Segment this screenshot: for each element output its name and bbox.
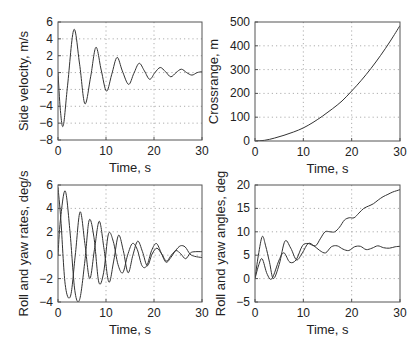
y-tick-label: 2 [46,49,53,63]
crossrange-line [255,26,400,141]
y-tick-label: 4 [46,201,53,215]
y-tick-label: 20 [237,178,251,192]
y-tick-label: 2 [46,225,53,239]
grid-lines [255,185,400,302]
y-tick-label: 0 [243,134,250,148]
yaw-rate-line [58,191,202,302]
x-axis-label: Time, s [306,322,349,337]
x-axis-label: Time, s [109,160,152,175]
x-tick-label: 30 [195,306,209,320]
y-tick-label: 0 [243,272,250,286]
y-tick-label: −4 [39,295,53,309]
y-axis-label: Side velocity, m/s [16,30,31,131]
y-tick-label: −2 [39,82,53,96]
plot-frame [255,22,400,141]
y-tick-label: 200 [230,86,250,100]
y-axis-ticks: 0100200300400500 [230,15,258,148]
y-tick-label: 400 [230,39,250,53]
roll-angle-line [255,236,400,278]
x-tick-label: 0 [55,306,62,320]
x-tick-label: 0 [55,144,62,158]
y-tick-label: −5 [236,295,250,309]
y-axis-label: Roll and yaw angles, deg [213,171,228,316]
y-tick-label: −6 [39,116,53,130]
roll-rate-line [58,187,202,298]
x-tick-label: 30 [393,306,407,320]
y-tick-label: 15 [237,201,251,215]
y-tick-label: 0 [46,248,53,262]
figure: 0102030−8−6−4−20246Time, sSide velocity,… [0,0,420,350]
plot-frame [58,22,202,140]
x-tick-label: 0 [252,306,259,320]
x-tick-label: 10 [297,306,311,320]
side-velocity-plot: 0102030−8−6−4−20246Time, sSide velocity,… [16,15,209,175]
x-tick-label: 10 [99,144,113,158]
x-tick-label: 20 [345,306,359,320]
x-axis-label: Time, s [109,322,152,337]
y-tick-label: 0 [46,66,53,80]
grid-lines [58,22,202,140]
x-axis-label: Time, s [306,161,349,176]
roll-yaw-rates-plot: 0102030−4−20246Time, sRoll and yaw rates… [16,170,209,337]
x-tick-label: 20 [147,306,161,320]
yaw-angle-line [255,190,400,280]
y-tick-label: 4 [46,32,53,46]
x-tick-label: 0 [252,145,259,159]
grid-lines [58,185,202,302]
y-tick-label: 300 [230,63,250,77]
x-tick-label: 10 [99,306,113,320]
x-tick-label: 20 [147,144,161,158]
plot-frame [255,185,400,302]
side-velocity-line [58,29,202,126]
y-tick-label: 6 [46,178,53,192]
y-axis-label: Crossrange, m [206,39,221,124]
y-tick-label: −8 [39,133,53,147]
y-tick-label: 500 [230,15,250,29]
roll-yaw-angles-plot: 0102030−505101520Time, sRoll and yaw ang… [213,171,407,337]
crossrange-plot: 01020300100200300400500Time, sCrossrange… [206,15,407,176]
y-tick-label: 6 [46,15,53,29]
y-tick-label: −4 [39,99,53,113]
y-tick-label: −2 [39,272,53,286]
y-tick-label: 100 [230,110,250,124]
y-axis-label: Roll and yaw rates, deg/s [16,170,31,316]
x-tick-label: 20 [345,145,359,159]
x-tick-label: 10 [297,145,311,159]
y-tick-label: 10 [237,225,251,239]
grid-lines [255,22,400,141]
y-tick-label: 5 [243,248,250,262]
x-tick-label: 30 [195,144,209,158]
x-tick-label: 30 [393,145,407,159]
plot-frame [58,185,202,302]
